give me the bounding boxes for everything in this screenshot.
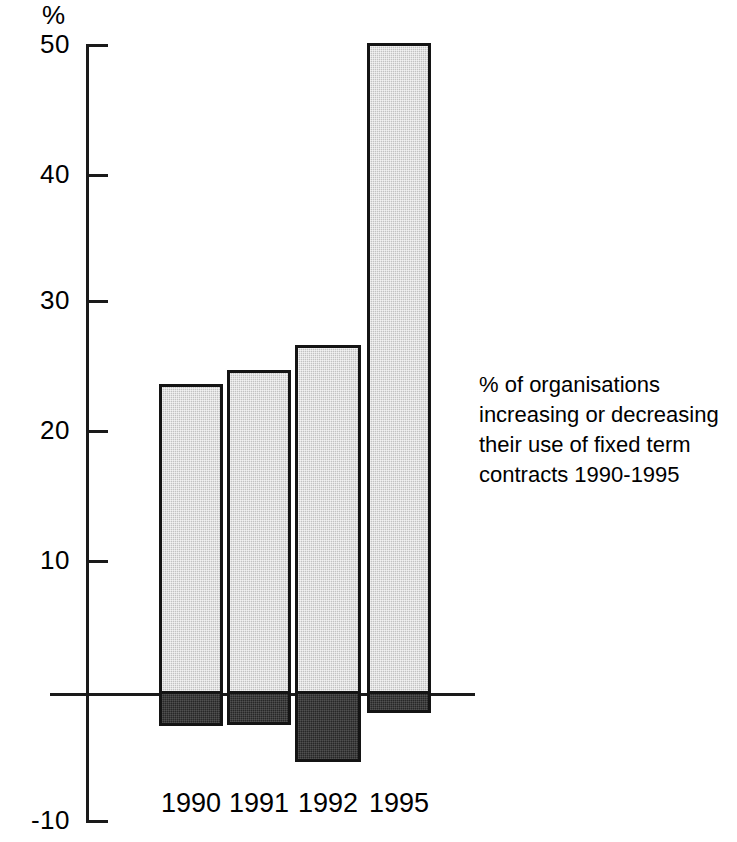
bar-negative-1992[interactable] xyxy=(295,694,361,762)
caption-line-4: contracts 1990-1995 xyxy=(479,460,731,490)
bar-negative-1990[interactable] xyxy=(159,694,223,726)
chart-caption: % of organisations increasing or decreas… xyxy=(479,370,731,490)
bar-group-1990[interactable] xyxy=(159,0,223,842)
bar-positive-1995[interactable] xyxy=(367,43,431,694)
x-label-1992: 1992 xyxy=(288,790,368,817)
caption-line-2: increasing or decreasing xyxy=(479,400,731,430)
y-tick-label-50: 50 xyxy=(8,31,70,57)
y-tick-label-20: 20 xyxy=(8,417,70,443)
y-tick-minus10 xyxy=(86,820,108,823)
y-tick-30 xyxy=(86,300,108,303)
caption-line-1: % of organisations xyxy=(479,370,731,400)
bar-group-1992[interactable] xyxy=(295,0,361,842)
bar-group-1995[interactable] xyxy=(367,0,431,842)
chart-canvas: % 50 40 30 20 10 -10 1990 1991 1992 1995… xyxy=(0,0,737,842)
bar-negative-1995[interactable] xyxy=(367,694,431,713)
y-axis-line xyxy=(86,45,89,823)
y-tick-50 xyxy=(86,44,108,47)
bar-positive-1991[interactable] xyxy=(227,370,291,694)
bar-positive-1992[interactable] xyxy=(295,345,361,694)
bar-group-1991[interactable] xyxy=(227,0,291,842)
y-tick-label-30: 30 xyxy=(8,287,70,313)
bar-positive-1990[interactable] xyxy=(159,384,223,694)
bar-negative-1991[interactable] xyxy=(227,694,291,725)
y-tick-20 xyxy=(86,430,108,433)
y-tick-label-minus10: -10 xyxy=(8,807,70,833)
y-axis-unit-label: % xyxy=(42,2,65,28)
x-label-1995: 1995 xyxy=(359,790,439,817)
caption-line-3: their use of fixed term xyxy=(479,430,731,460)
x-label-1991: 1991 xyxy=(219,790,299,817)
y-tick-label-40: 40 xyxy=(8,161,70,187)
y-tick-40 xyxy=(86,174,108,177)
y-tick-10 xyxy=(86,560,108,563)
y-tick-label-10: 10 xyxy=(8,547,70,573)
